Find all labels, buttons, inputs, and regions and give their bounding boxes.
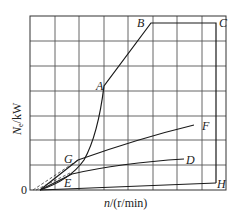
label-A: A	[95, 79, 104, 93]
label-F: F	[201, 119, 210, 133]
label-G: G	[64, 152, 73, 166]
label-C: C	[219, 16, 228, 30]
label-D: D	[185, 153, 195, 167]
diagram-canvas: A B C D E F G H 0 n/(r/min) Ne/kW	[0, 0, 239, 220]
y-axis-label: Ne/kW	[10, 102, 25, 136]
label-H: H	[216, 177, 227, 191]
origin-label: 0	[21, 183, 27, 197]
label-E: E	[63, 176, 72, 190]
x-axis-label: n/(r/min)	[104, 196, 147, 210]
label-B: B	[137, 16, 145, 30]
